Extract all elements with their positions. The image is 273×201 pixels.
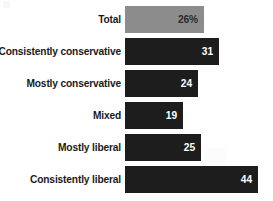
bar-value-label: 19 [166, 110, 177, 121]
bar-row: Mixed 19 [0, 102, 273, 129]
bar-consistently-liberal: 44 [125, 166, 258, 193]
bar-value-label: 25 [184, 142, 195, 153]
bar-row: Consistently conservative 31 [0, 38, 273, 65]
bar-category-label: Consistently conservative [0, 46, 121, 57]
bar-category-label: Consistently liberal [0, 174, 121, 185]
bar-value-label: 24 [181, 78, 192, 89]
bar-category-label: Mostly liberal [0, 142, 121, 153]
bar-value-label: 26% [178, 14, 198, 25]
bar-mostly-liberal: 25 [125, 134, 201, 161]
bar-value-label: 44 [241, 174, 252, 185]
bar-row: Mostly conservative 24 [0, 70, 273, 97]
bar-total: 26% [125, 6, 204, 33]
bar-category-label: Mostly conservative [0, 78, 121, 89]
bar-mixed: 19 [125, 102, 183, 129]
bar-consistently-conservative: 31 [125, 38, 219, 65]
bar-value-label: 31 [202, 46, 213, 57]
bar-mostly-conservative: 24 [125, 70, 198, 97]
bar-category-label: Mixed [0, 110, 121, 121]
bar-row: Total 26% [0, 6, 273, 33]
bar-row: Consistently liberal 44 [0, 166, 273, 193]
bar-category-label: Total [0, 14, 121, 25]
bar-chart: Total 26% Consistently conservative 31 M… [0, 0, 273, 201]
bar-row: Mostly liberal 25 [0, 134, 273, 161]
